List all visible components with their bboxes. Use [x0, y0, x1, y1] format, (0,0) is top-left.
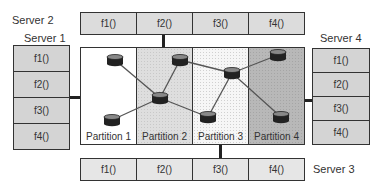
server-3-function-bar: f1() f2() f3() f4() [80, 158, 305, 181]
server-1-f4: f4() [14, 124, 69, 149]
partition-1-label: Partition 1 [81, 131, 136, 142]
partition-1: Partition 1 [81, 48, 137, 144]
server-3-f3: f3() [193, 159, 249, 180]
server-4-f4: f4() [313, 121, 369, 144]
server-1-f3: f3() [14, 98, 69, 124]
partition-4: Partition 4 [249, 48, 304, 144]
server-1-label: Server 1 [24, 32, 66, 44]
server-3-label: Server 3 [313, 163, 355, 175]
server-1-f2: f2() [14, 72, 69, 98]
server-2-f1: f1() [81, 13, 137, 34]
server-4-function-column: f1() f2() f3() f4() [312, 48, 370, 145]
server-1-connector [70, 96, 80, 99]
server-2-f2: f2() [137, 13, 193, 34]
server-1-f1: f1() [14, 46, 69, 72]
server-4-connector [305, 99, 312, 102]
server-4-f1: f1() [313, 49, 369, 73]
partition-2-label: Partition 2 [137, 131, 192, 142]
server-3-f4: f4() [249, 159, 304, 180]
server-3-connector [219, 145, 222, 158]
server-4-f3: f3() [313, 97, 369, 121]
partition-2: Partition 2 [137, 48, 193, 144]
server-2-connector [162, 35, 165, 47]
partition-3: Partition 3 [193, 48, 249, 144]
server-4-label: Server 4 [320, 32, 362, 44]
partition-container: Partition 1 Partition 2 Partition 3 Part… [80, 47, 305, 145]
server-4-f2: f2() [313, 73, 369, 97]
server-3-f1: f1() [81, 159, 137, 180]
server-2-label: Server 2 [12, 14, 54, 26]
server-2-f3: f3() [193, 13, 249, 34]
partition-3-label: Partition 3 [193, 131, 248, 142]
server-1-function-column: f1() f2() f3() f4() [13, 45, 70, 150]
server-2-f4: f4() [249, 13, 304, 34]
server-2-function-bar: f1() f2() f3() f4() [80, 12, 305, 35]
server-3-f2: f2() [137, 159, 193, 180]
partition-4-label: Partition 4 [249, 131, 304, 142]
